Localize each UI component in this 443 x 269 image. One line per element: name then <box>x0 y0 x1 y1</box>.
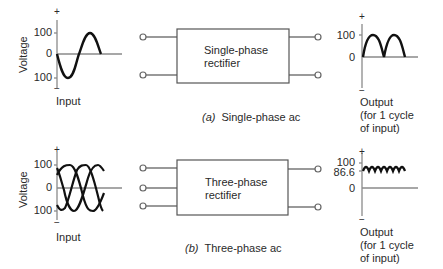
panel-b-rectifier-line1: Three-phase <box>205 176 267 189</box>
panel-b-rectifier-line2: rectifier <box>205 189 267 202</box>
panel-b-rectifier-label: Three-phase rectifier <box>205 176 267 202</box>
panel-a-output-plus-sign: + <box>359 12 365 22</box>
panel-b-caption: (b)Three-phase ac <box>185 242 282 254</box>
panel-a-input-minus-sign: − <box>54 84 60 94</box>
panel-a-output-tick-100: 100 <box>325 30 355 41</box>
panel-b-input-tick-0: 0 <box>22 182 52 193</box>
panel-b-output-tick-0: 0 <box>325 183 355 194</box>
panel-a-input-label: Input <box>56 95 80 107</box>
panel-b-output-minus-sign: − <box>359 215 365 225</box>
panel-b-input-three-phase-waves <box>57 165 104 211</box>
panel-b-caption-letter: (b) <box>185 242 198 254</box>
panel-a-input-plus-sign: + <box>54 7 60 17</box>
panel-b-output-label-line3: of input) <box>360 252 414 265</box>
panel-a-input-tick-0: 0 <box>22 48 52 59</box>
panel-a-rectifier-line1: Single-phase <box>204 44 268 57</box>
panel-a-caption-letter: (a) <box>202 111 215 123</box>
panel-b-input-tick-100: 100 <box>22 159 52 170</box>
panel-b-output-label: Output (for 1 cycle of input) <box>360 226 414 265</box>
panel-b-output-ripple-dc <box>363 167 405 171</box>
panel-b-output-axes <box>359 153 418 216</box>
panel-a-output-axes <box>359 24 418 88</box>
panel-a-input-tick-100: 100 <box>22 27 52 38</box>
panel-a-output-minus-sign: − <box>359 86 365 96</box>
panel-b-output-tick-86-6: 86.6 <box>325 167 355 178</box>
panel-b-input-label: Input <box>56 231 80 243</box>
panel-a-rectifier-label: Single-phase rectifier <box>204 44 268 70</box>
panel-a-output-label-line2: (for 1 cycle <box>360 109 414 122</box>
panel-a-caption: (a)Single-phase ac <box>202 111 300 123</box>
panel-a-output-label-line1: Output <box>360 96 414 109</box>
panel-a-input-axes <box>54 20 122 88</box>
panel-b-output-plus-sign: + <box>359 147 365 157</box>
panel-a-rectifier-line2: rectifier <box>204 57 268 70</box>
panel-b-input-tick-neg100: 100 <box>22 205 52 216</box>
panel-a-input-tick-neg100: 100 <box>22 72 52 83</box>
panel-b-caption-text: Three-phase ac <box>204 242 281 254</box>
panel-a-output-tick-0: 0 <box>325 52 355 63</box>
panel-a-output-label: Output (for 1 cycle of input) <box>360 96 414 135</box>
panel-a-caption-text: Single-phase ac <box>221 111 300 123</box>
panel-a-output-label-line3: of input) <box>360 122 414 135</box>
panel-a-input-sine-wave <box>57 33 101 78</box>
panel-b-output-label-line1: Output <box>360 226 414 239</box>
panel-b-input-plus-sign: + <box>54 145 60 155</box>
panel-b-input-minus-sign: − <box>54 218 60 228</box>
panel-b-output-label-line2: (for 1 cycle <box>360 239 414 252</box>
panel-a-output-full-wave-rectified <box>363 35 405 57</box>
